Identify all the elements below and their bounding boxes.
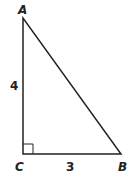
vertex-label-b: B (118, 160, 127, 174)
side-label-ac: 4 (10, 79, 18, 93)
triangle-abc (23, 18, 121, 154)
vertex-label-c: C (15, 160, 24, 174)
vertex-label-a: A (17, 3, 27, 17)
side-label-cb: 3 (66, 160, 74, 174)
right-angle-marker (23, 144, 33, 154)
triangle-diagram: A C B 4 3 (0, 0, 137, 178)
